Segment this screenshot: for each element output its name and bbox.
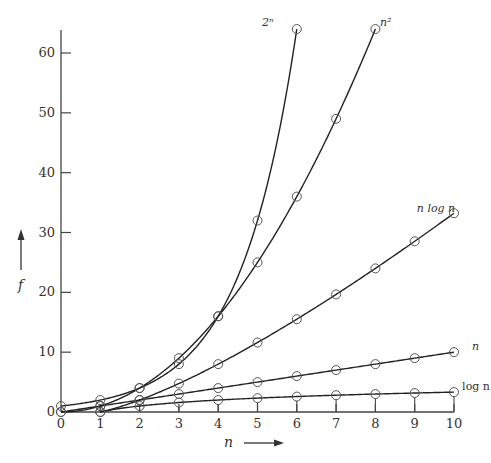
x-tick-label: 8 xyxy=(371,416,379,431)
x-tick-label: 1 xyxy=(96,416,104,431)
growth-functions-chart: 0123456789100102030405060 log nnn log nn… xyxy=(0,0,491,463)
x-tick-label: 4 xyxy=(214,416,222,431)
y-tick-label: 10 xyxy=(38,344,55,359)
y-tick-label: 60 xyxy=(38,45,55,60)
data-point-marker xyxy=(371,25,380,34)
y-tick-label: 30 xyxy=(38,225,55,240)
x-tick-label: 7 xyxy=(332,416,340,431)
curve-label-2-n: 2ⁿ xyxy=(261,16,273,29)
y-tick-label: 0 xyxy=(47,404,55,419)
curve-labels: log nnn log nn²2ⁿ xyxy=(261,16,490,393)
y-axis-arrowhead-icon xyxy=(18,229,25,240)
y-tick-label: 20 xyxy=(38,284,55,299)
x-tick-label: 2 xyxy=(135,416,143,431)
y-tick-label: 50 xyxy=(38,105,55,120)
curve-n-2 xyxy=(61,29,375,412)
x-tick-label: 6 xyxy=(293,416,301,431)
axes: 0123456789100102030405060 xyxy=(38,30,462,431)
x-axis-label: n xyxy=(224,434,233,450)
curves xyxy=(61,29,454,412)
y-tick-label: 40 xyxy=(38,165,55,180)
y-axis-label: f xyxy=(17,277,26,293)
x-axis-arrowhead-icon xyxy=(274,440,284,447)
x-tick-label: 5 xyxy=(253,416,261,431)
x-tick-label: 10 xyxy=(446,416,463,431)
curve-label-n: n xyxy=(472,340,479,353)
x-tick-label: 0 xyxy=(57,416,65,431)
curve-label-n-log-n: n log n xyxy=(417,202,455,215)
curve-label-log-n: log n xyxy=(462,380,490,393)
x-tick-label: 9 xyxy=(411,416,419,431)
curve-label-n-2: n² xyxy=(380,16,392,29)
x-tick-label: 3 xyxy=(175,416,183,431)
